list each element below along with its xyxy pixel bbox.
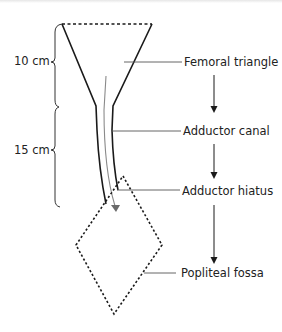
dimension-label-10cm: 10 cm (14, 54, 50, 68)
label-adductor-canal: Adductor canal (183, 124, 270, 138)
label-femoral-triangle: Femoral triangle (184, 55, 278, 69)
dimension-label-15cm: 15 cm (14, 143, 50, 157)
label-popliteal-fossa: Popliteal fossa (181, 266, 264, 280)
funnel-left-wall (62, 24, 106, 204)
label-adductor-hiatus: Adductor hiatus (182, 184, 273, 198)
femoral-vessel-path (104, 76, 115, 206)
funnel-right-wall (112, 24, 152, 190)
vessel-arrowhead-icon (111, 205, 120, 212)
dimension-brace (51, 24, 62, 207)
flow-arrowhead-1-icon (211, 106, 218, 113)
flow-arrowhead-2-icon (211, 172, 218, 179)
flow-arrowhead-3-icon (211, 257, 218, 264)
diagram-canvas (0, 0, 282, 332)
popliteal-fossa-diamond (76, 176, 162, 314)
